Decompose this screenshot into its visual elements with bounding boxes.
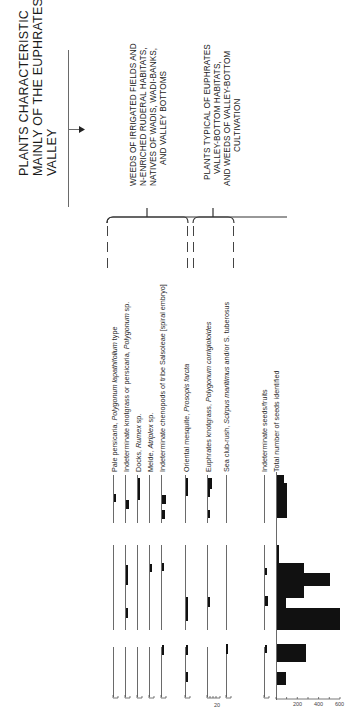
group2-line-3: AND WEEDS OF VALLEY-BOTTOM (223, 51, 233, 186)
species-label: Docks, Rumex sp. (134, 414, 143, 472)
hist-tick-600: 600 (335, 701, 344, 707)
species-label: Indeterminate chenopods of tribe Salsole… (158, 284, 167, 472)
species-label: Sea club-rush, Scirpus maritimus and/or … (222, 302, 231, 472)
title-line-2: MAINLY OF THE EUPHRATES (31, 0, 45, 176)
species-label: Indeterminate knotgrass or persicaria, P… (122, 302, 131, 472)
group1-line-4: AND VALLEY BOTTOMS (159, 71, 169, 165)
species-label: Oriental mesquite, Prosopis farcta (182, 364, 191, 472)
strip-scale-ticks (110, 695, 270, 709)
title-line-1: PLANTS CHARACTERISTIC (17, 10, 31, 176)
species-label: Pale persicaria, Polygonum lapathifolium… (110, 327, 119, 472)
strip-scale-label: 20 (214, 702, 220, 708)
summary-label-total: Total number of seeds identified (272, 371, 281, 472)
group2-line-4: CULTIVATION (233, 99, 243, 152)
title-line-3: VALLEY (45, 128, 59, 176)
species-label: Euphrates knotgrass, Polygonum corrigiol… (204, 322, 213, 472)
arrow-right-icon (79, 126, 87, 133)
group2-line-1: PLANTS TYPICAL OF EUPHRATES (203, 44, 213, 180)
hist-tick-200: 200 (293, 701, 302, 707)
group1-line-1: WEEDS OF IRRIGATED FIELDS AND (129, 43, 139, 186)
hist-tick-400: 400 (314, 701, 323, 707)
species-label: Melde, Atriplex sp. (146, 413, 155, 472)
group2-line-2: VALLEY-BOTTOM HABITATS, (213, 61, 223, 174)
group1-line-2: N-ENRICHED RUDERAL HABITATS, (139, 47, 149, 186)
summary-label-indeterminate: Indeterminate seeds/fruits (260, 389, 269, 472)
group-braces (104, 205, 244, 275)
group1-line-3: NATIVES OF WADIS, WADI-BANKS, (149, 48, 159, 186)
